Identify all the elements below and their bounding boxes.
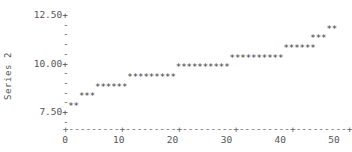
y-minor-tick: -: [63, 49, 69, 58]
x-tick-label: 50: [328, 135, 339, 145]
y-minor-tick: -: [63, 68, 69, 77]
x-tick-label: 10: [113, 135, 124, 145]
marker-run: **********: [230, 54, 284, 63]
y-minor-tick: -: [63, 88, 69, 97]
marker-run: **: [326, 25, 337, 34]
marker-run: ******: [95, 83, 127, 92]
y-minor-tick: -: [63, 29, 69, 38]
marker-run: ******: [283, 44, 315, 53]
x-tick-label: 0: [62, 135, 68, 145]
marker-run: ***: [310, 34, 326, 43]
y-tick-label: 12.50+: [34, 10, 68, 19]
x-tick-label: 20: [167, 135, 178, 145]
x-tick-label: 40: [274, 135, 285, 145]
y-tick-label: 7.50+: [39, 107, 68, 116]
y-minor-tick: -: [63, 39, 69, 48]
x-axis-line: +---------+---------+---------+---------…: [63, 124, 352, 133]
marker-run: **: [68, 102, 79, 111]
y-minor-tick: -: [63, 78, 69, 87]
x-tick-label: 30: [221, 135, 232, 145]
marker-run: **********: [176, 63, 230, 72]
y-tick-label: 10.00+: [34, 59, 68, 68]
marker-run: *********: [127, 73, 175, 82]
y-minor-tick: -: [63, 20, 69, 29]
marker-run: ***: [79, 92, 95, 101]
y-axis-ticks: 12.50+10.00+7.50+: [0, 0, 68, 152]
